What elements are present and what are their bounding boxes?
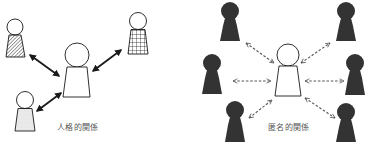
relationship-diagram bbox=[0, 0, 371, 148]
person-dark-icon bbox=[336, 2, 356, 41]
personal-relationship-panel bbox=[6, 13, 148, 132]
dashed-arrow-icon bbox=[305, 98, 335, 118]
dashed-arrow-icon bbox=[301, 43, 330, 63]
dashed-arrow-icon bbox=[246, 43, 274, 63]
person-dark-icon bbox=[336, 103, 356, 142]
person-self-icon bbox=[63, 43, 90, 97]
person-dark-icon bbox=[345, 54, 365, 95]
person-dotted-icon bbox=[15, 92, 35, 132]
solid-arrow-icon bbox=[30, 55, 59, 76]
person-self-icon bbox=[275, 44, 301, 96]
person-dark-icon bbox=[225, 101, 245, 142]
dashed-arrow-icon bbox=[249, 100, 272, 118]
anonymous-relationship-label: 匿名的関係 bbox=[268, 121, 310, 132]
solid-arrow-icon bbox=[93, 50, 121, 71]
person-dark-icon bbox=[202, 54, 222, 94]
solid-arrow-icon bbox=[37, 93, 61, 111]
person-dark-icon bbox=[220, 2, 240, 41]
person-hatched-icon bbox=[6, 19, 25, 57]
person-grid-icon bbox=[128, 13, 148, 55]
personal-relationship-label: 人格的関係 bbox=[57, 121, 99, 132]
